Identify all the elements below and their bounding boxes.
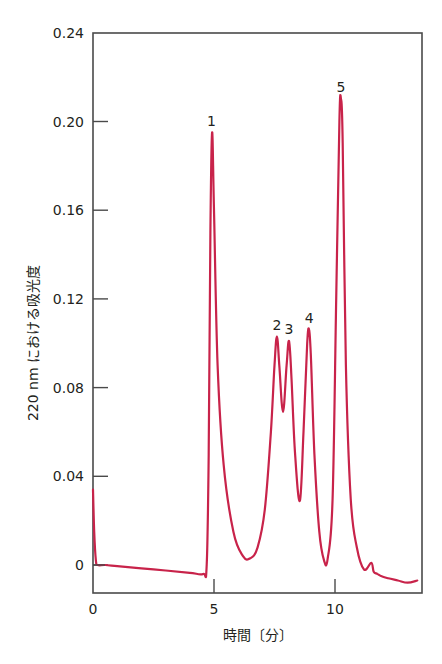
plot-frame <box>93 33 422 593</box>
x-axis-ticks: 0510 <box>89 579 344 617</box>
peak-label: 3 <box>285 321 294 337</box>
peak-label: 5 <box>337 79 346 95</box>
y-tick-label: 0.12 <box>53 291 84 307</box>
y-tick-label: 0.08 <box>53 380 84 396</box>
y-axis-title: 220 nm における吸光度 <box>25 265 41 421</box>
peak-label: 1 <box>207 113 216 129</box>
peak-labels: 12345 <box>207 79 345 337</box>
x-axis-title: 時間〔分〕 <box>223 627 293 643</box>
y-tick-label: 0.20 <box>53 114 84 130</box>
y-axis-ticks: 00.040.080.120.160.200.24 <box>53 25 108 573</box>
x-tick-label: 10 <box>326 601 344 617</box>
series-line <box>93 95 417 583</box>
peak-label: 4 <box>305 310 314 326</box>
x-tick-label: 0 <box>89 601 98 617</box>
chromatogram-chart: 00.040.080.120.160.200.24 0510 12345 220… <box>0 0 442 664</box>
y-tick-label: 0.16 <box>53 202 84 218</box>
peak-label: 2 <box>272 317 281 333</box>
y-tick-label: 0 <box>75 557 84 573</box>
y-tick-label: 0.24 <box>53 25 84 41</box>
y-tick-label: 0.04 <box>53 468 84 484</box>
chromatogram-trace <box>93 95 417 583</box>
x-tick-label: 5 <box>210 601 219 617</box>
